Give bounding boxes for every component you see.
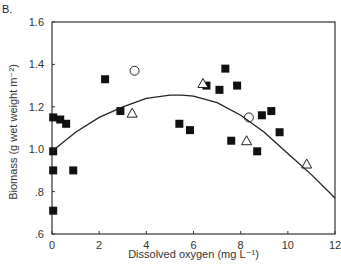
x-tick-label: 0 — [49, 239, 55, 251]
data-point-square — [49, 113, 57, 121]
data-point-square — [221, 65, 229, 73]
data-point-square — [69, 166, 77, 174]
data-point-triangle — [242, 136, 252, 145]
data-point-square — [101, 75, 109, 83]
fit-curve — [52, 95, 335, 198]
y-tick-label: 1.6 — [29, 16, 44, 28]
data-point-square — [233, 82, 241, 90]
data-point-square — [227, 137, 235, 145]
x-tick-label: 10 — [282, 239, 294, 251]
data-point-square — [49, 166, 57, 174]
y-tick-label: 1.4 — [29, 58, 44, 70]
scatter-chart: 024681012.6.81.01.21.41.6Dissolved oxyge… — [0, 0, 341, 268]
y-tick-label: .6 — [35, 228, 44, 240]
data-point-square — [267, 107, 275, 115]
y-tick-label: 1.0 — [29, 143, 44, 155]
data-point-square — [276, 128, 284, 136]
data-point-square — [215, 86, 223, 94]
data-point-square — [175, 120, 183, 128]
data-point-square — [62, 120, 70, 128]
x-axis-title: Dissolved oxygen (mg L⁻¹) — [128, 248, 259, 260]
data-point-square — [49, 207, 57, 215]
data-point-triangle — [127, 108, 137, 117]
data-point-square — [253, 147, 261, 155]
x-tick-label: 2 — [96, 239, 102, 251]
y-tick-label: 1.2 — [29, 101, 44, 113]
y-tick-label: .8 — [35, 186, 44, 198]
y-axis-title: Biomass (g wet weight m⁻²) — [7, 64, 19, 200]
x-tick-label: 12 — [329, 239, 341, 251]
data-point-circle — [130, 66, 139, 75]
data-point-square — [186, 126, 194, 134]
data-point-square — [258, 111, 266, 119]
